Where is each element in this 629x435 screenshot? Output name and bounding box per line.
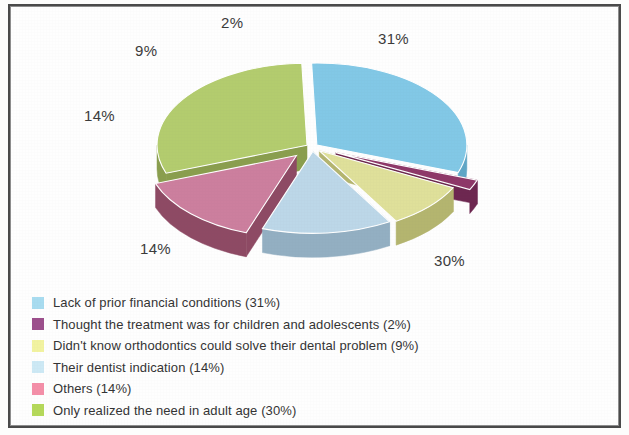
- pie-label-9: 9%: [135, 42, 157, 59]
- legend-swatch-yellow-icon: [32, 340, 44, 352]
- legend-item-adult-age: Only realized the need in adult age (30%…: [32, 400, 602, 422]
- legend-item-financial: Lack of prior financial conditions (31%): [32, 292, 602, 314]
- legend-item-children: Thought the treatment was for children a…: [32, 314, 602, 336]
- legend-label-others: Others (14%): [53, 381, 132, 396]
- legend-item-others: Others (14%): [32, 378, 602, 400]
- pie-label-2: 2%: [221, 14, 243, 31]
- pie-label-31: 31%: [378, 30, 409, 47]
- pie-chart-area: 31% 2% 9% 14% 14% 30%: [20, 12, 616, 284]
- legend-label-didnt-know: Didn't know orthodontics could solve the…: [53, 338, 419, 353]
- legend-item-didnt-know: Didn't know orthodontics could solve the…: [32, 335, 602, 357]
- legend-swatch-pink-icon: [32, 383, 44, 395]
- legend-swatch-pale-blue-icon: [32, 361, 44, 373]
- figure-container: 31% 2% 9% 14% 14% 30% Lack of prior fina…: [0, 0, 629, 435]
- legend-label-adult-age: Only realized the need in adult age (30%…: [53, 403, 296, 418]
- figure-frame: 31% 2% 9% 14% 14% 30% Lack of prior fina…: [8, 4, 621, 428]
- chart-legend: Lack of prior financial conditions (31%)…: [32, 292, 602, 421]
- legend-item-dentist: Their dentist indication (14%): [32, 357, 602, 379]
- legend-label-children: Thought the treatment was for children a…: [53, 317, 411, 332]
- pie-chart-svg: [20, 12, 616, 284]
- pie-label-14-others: 14%: [140, 240, 171, 257]
- legend-swatch-purple-icon: [32, 318, 44, 330]
- pie-label-30: 30%: [434, 252, 465, 269]
- legend-swatch-blue-icon: [32, 297, 44, 309]
- legend-label-dentist: Their dentist indication (14%): [53, 360, 224, 375]
- legend-swatch-green-icon: [32, 404, 44, 416]
- pie-label-14-dentist: 14%: [84, 107, 115, 124]
- legend-label-financial: Lack of prior financial conditions (31%): [53, 295, 280, 310]
